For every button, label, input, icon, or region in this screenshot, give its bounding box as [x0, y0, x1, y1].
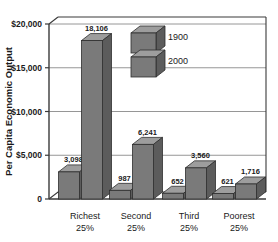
y-axis-title: Per Capita Economic Output	[3, 46, 14, 176]
y-axis-tick-label: $20,000	[11, 19, 42, 29]
y-axis-tick-label: $5,000	[16, 150, 42, 160]
bar-front-face	[110, 190, 131, 199]
bar-value-label: 18,106	[85, 24, 108, 33]
bar-front-face	[82, 41, 103, 199]
bar-chart: $20,000$15,000$10,000$5,00003,09818,106R…	[0, 0, 278, 242]
x-axis-category-label: 25%	[180, 223, 198, 233]
chart-canvas: $20,000$15,000$10,000$5,00003,09818,106R…	[0, 0, 278, 242]
x-axis-category-label: Third	[179, 211, 200, 221]
bar-front-face	[163, 193, 184, 199]
x-axis-category-label: Poorest	[223, 211, 255, 221]
bar-value-label: 6,241	[138, 128, 157, 137]
bar-value-label: 3,098	[64, 155, 83, 164]
bar-front-face	[59, 172, 80, 199]
bar-side-face	[154, 137, 163, 199]
bar-2000-1: 6,241	[133, 128, 163, 199]
x-axis-category-label: 25%	[127, 223, 145, 233]
y-axis-tick-label: $10,000	[11, 107, 42, 117]
x-axis-category-label: 25%	[230, 223, 248, 233]
legend-swatch-2000	[131, 50, 165, 77]
plot-corner-edge	[49, 17, 58, 24]
legend-label-2000: 2000	[168, 56, 188, 66]
y-axis-tick-label: $15,000	[11, 63, 42, 73]
bar-front-face	[213, 194, 234, 199]
legend-swatch-front	[131, 57, 156, 77]
bar-side-face	[103, 34, 112, 199]
x-axis-category-label: Second	[121, 211, 152, 221]
bar-2000-3: 1,716	[236, 167, 266, 199]
bar-front-face	[236, 184, 257, 199]
bar-2000-2: 3,560	[186, 151, 216, 199]
legend-swatch-1900	[131, 26, 165, 53]
bar-value-label: 1,716	[241, 167, 260, 176]
bar-front-face	[133, 144, 154, 199]
bar-value-label: 3,560	[191, 151, 210, 160]
bar-2000-0: 18,106	[82, 24, 112, 199]
bar-value-label: 652	[171, 177, 184, 186]
x-axis-category-label: 25%	[76, 223, 94, 233]
x-axis-category-label: Richest	[70, 211, 101, 221]
bar-value-label: 621	[221, 177, 234, 186]
bar-front-face	[186, 168, 207, 199]
bar-value-label: 987	[118, 174, 131, 183]
y-axis-tick-label: 0	[37, 194, 42, 204]
legend-label-1900: 1900	[168, 32, 188, 42]
